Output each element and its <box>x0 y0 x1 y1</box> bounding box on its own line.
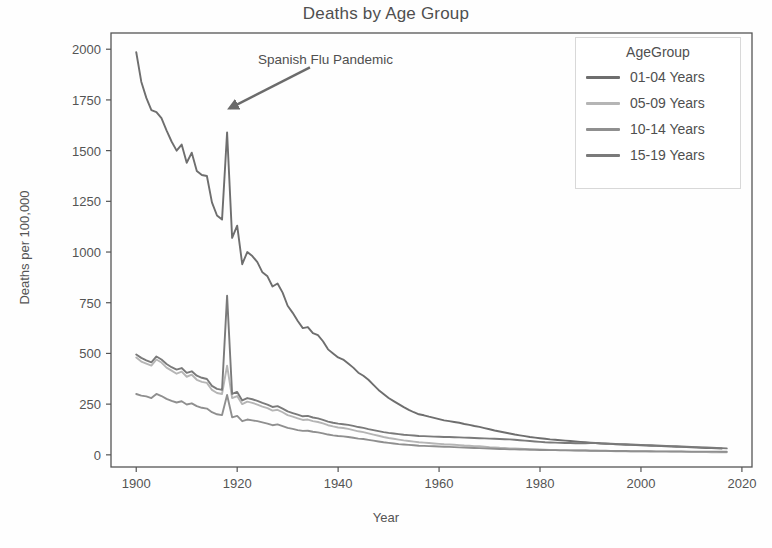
svg-text:1750: 1750 <box>72 93 101 108</box>
legend-item-label: 10-14 Years <box>630 121 705 137</box>
legend-item-01-04[interactable]: 01-04 Years <box>576 64 740 90</box>
legend-item-label: 15-19 Years <box>630 147 705 163</box>
legend-item-10-14[interactable]: 10-14 Years <box>576 116 740 142</box>
legend-item-label: 05-09 Years <box>630 95 705 111</box>
svg-text:1000: 1000 <box>72 245 101 260</box>
svg-text:2020: 2020 <box>727 476 756 491</box>
svg-text:1250: 1250 <box>72 194 101 209</box>
annotation-spanish-flu: Spanish Flu Pandemic <box>258 52 393 67</box>
svg-text:1940: 1940 <box>324 476 353 491</box>
y-axis-label: Deaths per 100,000 <box>17 138 32 358</box>
svg-text:500: 500 <box>79 346 101 361</box>
legend-item-05-09[interactable]: 05-09 Years <box>576 90 740 116</box>
svg-text:1500: 1500 <box>72 144 101 159</box>
legend-line-icon <box>586 154 620 157</box>
chart-legend: AgeGroup 01-04 Years 05-09 Years 10-14 Y… <box>575 37 741 189</box>
legend-line-icon <box>586 128 620 131</box>
svg-text:0: 0 <box>94 448 101 463</box>
legend-line-icon <box>586 102 620 105</box>
legend-line-icon <box>586 76 620 79</box>
svg-text:1900: 1900 <box>122 476 151 491</box>
svg-text:2000: 2000 <box>72 42 101 57</box>
svg-text:1920: 1920 <box>223 476 252 491</box>
svg-text:2000: 2000 <box>626 476 655 491</box>
x-axis-label: Year <box>0 510 772 525</box>
svg-text:1960: 1960 <box>425 476 454 491</box>
legend-item-15-19[interactable]: 15-19 Years <box>576 142 740 168</box>
svg-text:250: 250 <box>79 397 101 412</box>
chart-figure: Deaths by Age Group 19001920194019601980… <box>0 0 772 548</box>
svg-text:1980: 1980 <box>526 476 555 491</box>
svg-text:750: 750 <box>79 296 101 311</box>
legend-item-label: 01-04 Years <box>630 69 705 85</box>
legend-title: AgeGroup <box>576 44 740 60</box>
